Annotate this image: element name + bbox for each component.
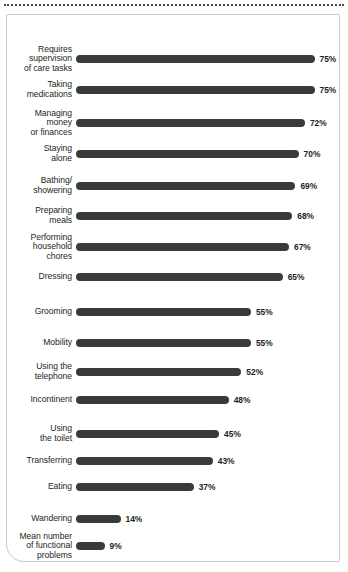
bar-fill [76, 308, 251, 316]
bar-track [76, 212, 292, 220]
bar-category-label: Using the toilet [0, 424, 72, 443]
bar-category-label: Staying alone [0, 144, 72, 163]
bar-value-label: 70% [304, 146, 321, 162]
bar-fill [76, 243, 289, 251]
bar-fill [76, 542, 105, 550]
bar-value-label: 75% [320, 82, 337, 98]
bar-value-label: 55% [256, 335, 273, 351]
bar-fill [76, 55, 315, 63]
bar-category-label: Wandering [0, 514, 72, 524]
chart-frame: Requires supervision of care tasks75%Tak… [6, 14, 340, 562]
bar-category-label: Transferring [0, 456, 72, 466]
bar-fill [76, 368, 241, 376]
bar-fill [76, 430, 219, 438]
bar-category-label: Dressing [0, 272, 72, 282]
bar-value-label: 69% [300, 178, 317, 194]
bar-track [76, 119, 305, 127]
bar-fill [76, 396, 229, 404]
bar-chart-plot-area: Requires supervision of care tasks75%Tak… [7, 15, 341, 563]
bar-fill [76, 339, 251, 347]
bar-category-label: Incontinent [0, 395, 72, 405]
bar-fill [76, 273, 283, 281]
bar-category-label: Managing money or finances [0, 109, 72, 138]
bar-value-label: 14% [126, 511, 143, 527]
bar-value-label: 9% [110, 538, 122, 554]
bar-category-label: Taking medications [0, 80, 72, 99]
bar-track [76, 515, 121, 523]
chart-root: Requires supervision of care tasks75%Tak… [0, 0, 348, 572]
bar-track [76, 150, 299, 158]
bar-category-label: Requires supervision of care tasks [0, 45, 72, 74]
bar-category-label: Mean number of functional problems [0, 532, 72, 561]
bar-track [76, 86, 315, 94]
bar-track [76, 55, 315, 63]
bar-value-label: 67% [294, 239, 311, 255]
bar-category-label: Eating [0, 482, 72, 492]
bar-value-label: 75% [320, 51, 337, 67]
bar-fill [76, 182, 295, 190]
bar-track [76, 396, 229, 404]
bar-value-label: 43% [218, 453, 235, 469]
bar-category-label: Using the telephone [0, 362, 72, 381]
bar-track [76, 542, 105, 550]
bar-category-label: Grooming [0, 307, 72, 317]
bar-value-label: 68% [297, 208, 314, 224]
bar-value-label: 72% [310, 115, 327, 131]
bar-track [76, 368, 241, 376]
top-dotted-divider [4, 4, 344, 6]
bar-track [76, 308, 251, 316]
bar-fill [76, 119, 305, 127]
bar-fill [76, 86, 315, 94]
bar-track [76, 457, 213, 465]
bar-value-label: 48% [234, 392, 251, 408]
bar-fill [76, 212, 292, 220]
bar-track [76, 483, 194, 491]
bar-fill [76, 515, 121, 523]
bar-value-label: 52% [246, 364, 263, 380]
bar-fill [76, 483, 194, 491]
bar-value-label: 65% [288, 269, 305, 285]
bar-category-label: Performing household chores [0, 233, 72, 262]
bar-track [76, 182, 295, 190]
bar-value-label: 45% [224, 426, 241, 442]
bar-track [76, 339, 251, 347]
bar-category-label: Mobility [0, 338, 72, 348]
bar-track [76, 430, 219, 438]
bar-value-label: 37% [199, 479, 216, 495]
bar-fill [76, 150, 299, 158]
bar-value-label: 55% [256, 304, 273, 320]
bar-category-label: Bathing/ showering [0, 176, 72, 195]
bar-category-label: Preparing meals [0, 206, 72, 225]
bar-fill [76, 457, 213, 465]
bar-track [76, 243, 289, 251]
bar-track [76, 273, 283, 281]
